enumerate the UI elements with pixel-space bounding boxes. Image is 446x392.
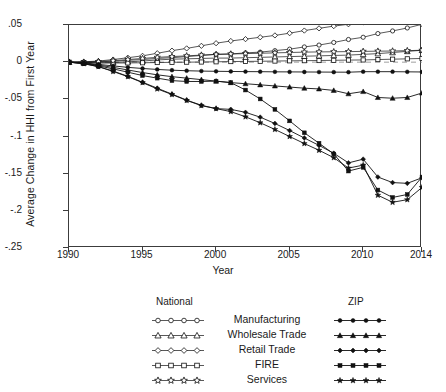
national-circle-marker-icon: [150, 313, 206, 326]
data-point: [213, 41, 218, 46]
series-line: [69, 62, 422, 183]
data-point: [345, 48, 351, 54]
data-point: [317, 70, 321, 74]
data-point: [242, 50, 248, 56]
data-point: [257, 50, 263, 56]
data-point: [288, 70, 292, 74]
data-point: [317, 43, 321, 47]
data-point: [317, 141, 321, 145]
data-point: [199, 80, 203, 84]
data-point: [213, 51, 219, 57]
data-point: [272, 126, 278, 131]
data-point: [301, 49, 307, 55]
national-square-marker-icon: [150, 358, 206, 371]
legend-item[interactable]: Services: [150, 372, 400, 387]
data-point: [199, 43, 204, 48]
data-point: [405, 181, 410, 186]
data-point: [316, 26, 321, 31]
data-point: [125, 74, 131, 79]
legend-header: National ZIP: [150, 296, 400, 312]
legend-item[interactable]: Retail Trade: [150, 342, 400, 357]
data-point: [229, 59, 233, 63]
data-point: [199, 103, 205, 108]
data-point: [273, 121, 278, 126]
data-point: [316, 49, 322, 55]
data-point: [169, 92, 175, 97]
data-point: [243, 59, 247, 63]
data-point: [199, 60, 203, 64]
data-point: [185, 60, 189, 64]
legend-item-label: Retail Trade: [208, 343, 326, 355]
y-axis-title: Average Change in HHI from First Year: [24, 16, 36, 252]
data-point: [258, 70, 262, 74]
data-point: [347, 70, 351, 74]
y-tick-label: -.15: [0, 168, 22, 178]
data-point: [360, 48, 366, 54]
zip-square-marker-icon: [332, 358, 388, 371]
data-point: [257, 120, 263, 125]
data-point: [390, 57, 394, 61]
data-point: [420, 25, 422, 26]
y-tick-label: -.25: [0, 242, 22, 252]
data-point: [141, 74, 145, 78]
data-point: [140, 61, 144, 65]
legend-header-zip: ZIP: [348, 296, 364, 307]
national-diamond-marker-icon: [150, 343, 206, 356]
data-point: [391, 70, 395, 74]
data-point: [361, 89, 366, 94]
data-point: [375, 192, 381, 197]
data-point: [287, 134, 293, 139]
data-point: [346, 58, 350, 62]
data-point: [198, 52, 204, 58]
data-point: [405, 57, 409, 61]
data-point: [420, 175, 422, 179]
data-point: [170, 68, 174, 72]
data-point: [346, 37, 350, 41]
data-point: [316, 147, 322, 152]
legend-rows: ManufacturingWholesale TradeRetail Trade…: [150, 312, 400, 387]
legend-item[interactable]: FIRE: [150, 357, 400, 372]
data-point: [346, 25, 351, 27]
data-point: [258, 59, 262, 63]
legend-item[interactable]: Wholesale Trade: [150, 327, 400, 342]
legend-item[interactable]: Manufacturing: [150, 312, 400, 327]
data-point: [287, 128, 292, 133]
data-point: [214, 69, 218, 73]
zip-circle-marker-icon: [332, 313, 388, 326]
data-point: [155, 60, 159, 64]
data-point: [390, 29, 394, 33]
chart-figure: Average Change in HHI from First Year .0…: [0, 0, 446, 392]
data-point: [258, 115, 263, 120]
data-point: [154, 86, 160, 91]
chart-legend: National ZIP ManufacturingWholesale Trad…: [150, 296, 400, 387]
data-point: [244, 88, 248, 92]
data-point: [302, 136, 307, 141]
data-point: [376, 188, 380, 192]
data-point: [243, 36, 248, 41]
data-point: [390, 199, 396, 204]
data-point: [199, 69, 203, 73]
x-axis-title: Year: [0, 264, 446, 276]
data-point: [214, 79, 218, 83]
data-point: [244, 70, 248, 74]
data-point: [332, 70, 336, 74]
legend-item-label: FIRE: [208, 358, 326, 370]
data-point: [273, 107, 277, 111]
national-triangle-marker-icon: [150, 328, 206, 341]
zip-triangle-marker-icon: [332, 328, 388, 341]
data-point: [405, 193, 409, 197]
plot-area: [68, 24, 421, 247]
data-point: [375, 48, 381, 54]
data-point: [376, 31, 380, 35]
data-point: [273, 70, 277, 74]
data-point: [258, 35, 263, 40]
data-point: [273, 59, 277, 63]
legend-item-label: Services: [208, 373, 326, 385]
data-point: [155, 76, 159, 80]
data-point: [390, 180, 395, 185]
data-point: [302, 70, 306, 74]
series-canvas: [69, 25, 422, 248]
data-point: [170, 60, 174, 64]
legend-item-label: Manufacturing: [208, 313, 326, 325]
data-point: [228, 51, 234, 57]
